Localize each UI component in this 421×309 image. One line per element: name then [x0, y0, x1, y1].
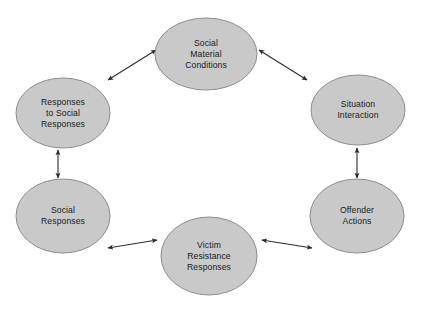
edge-arrow — [108, 50, 156, 80]
node-ellipse-offender-actions[interactable] — [310, 179, 404, 253]
node-ellipse-victim-resistance-responses[interactable] — [161, 217, 257, 295]
edge-arrow — [262, 240, 312, 248]
node-ellipse-situation-interaction[interactable] — [311, 75, 405, 145]
edge-arrow — [108, 240, 157, 248]
diagram-canvas: Social Material ConditionsSituation Inte… — [0, 0, 421, 309]
node-ellipse-social-responses[interactable] — [16, 179, 110, 253]
node-ellipse-responses-to-social-responses[interactable] — [16, 78, 110, 148]
node-ellipse-social-material-conditions[interactable] — [155, 18, 257, 90]
edge-arrow — [259, 50, 307, 80]
diagram-svg — [0, 0, 421, 309]
nodes-layer — [16, 18, 405, 295]
